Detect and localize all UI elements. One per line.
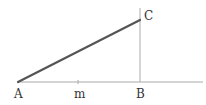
label-a: A [13, 87, 23, 101]
geometry-diagram: A m B C [0, 0, 206, 105]
label-c: C [144, 9, 153, 23]
segment-ac [18, 20, 140, 82]
label-b: B [136, 87, 145, 101]
label-m: m [74, 87, 86, 101]
